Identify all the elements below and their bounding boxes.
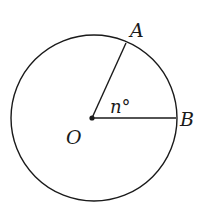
angle-label: n°: [110, 96, 131, 117]
diagram-canvas: A B O n°: [0, 0, 203, 214]
label-b: B: [179, 108, 194, 130]
label-a: A: [128, 19, 144, 41]
circle-diagram: A B O n°: [0, 0, 203, 214]
label-o: O: [66, 126, 82, 148]
center-point: [89, 115, 94, 120]
